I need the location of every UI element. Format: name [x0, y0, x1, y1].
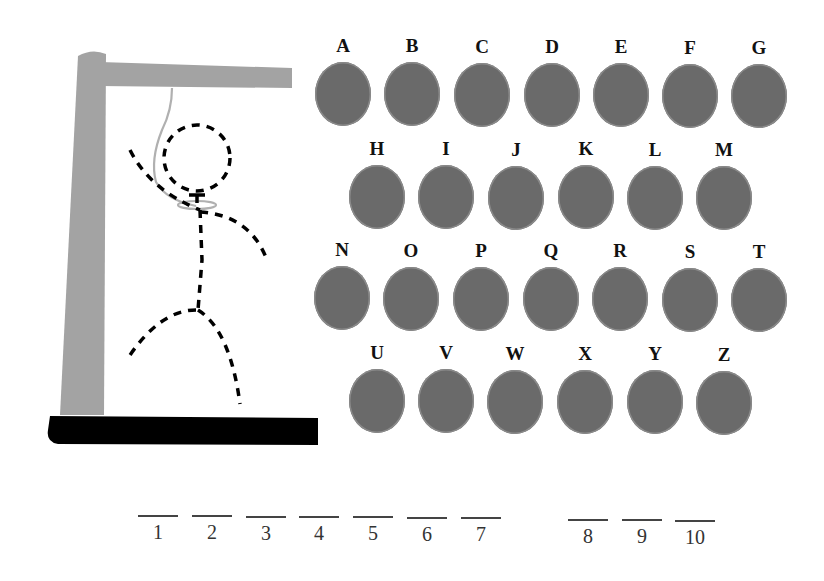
letter-button-l[interactable]: L [627, 140, 683, 230]
letter-label: X [557, 344, 613, 364]
letter-button-g[interactable]: G [731, 38, 787, 128]
blank-number: 8 [568, 525, 608, 548]
letter-blank-5: 5 [353, 516, 393, 556]
blank-number: 6 [407, 523, 447, 546]
letter-disc [383, 267, 439, 331]
letter-disc [523, 267, 579, 331]
letter-disc [731, 64, 787, 128]
letter-button-c[interactable]: C [454, 37, 510, 127]
letter-label: T [731, 242, 787, 262]
letter-disc [558, 165, 614, 229]
letter-button-a[interactable]: A [315, 36, 371, 126]
letter-blank-3: 3 [246, 516, 286, 556]
letter-disc [453, 267, 509, 331]
letter-button-x[interactable]: X [557, 344, 613, 434]
letter-label: J [488, 140, 544, 160]
letter-button-n[interactable]: N [314, 240, 370, 330]
blank-line [675, 520, 715, 522]
letter-label: P [453, 241, 509, 261]
letter-label: C [454, 37, 510, 57]
blank-number: 7 [461, 523, 501, 546]
letter-button-i[interactable]: I [418, 139, 474, 229]
blank-number: 5 [353, 522, 393, 545]
letter-blank-8: 8 [568, 519, 608, 559]
letter-label: B [384, 36, 440, 56]
letter-button-m[interactable]: M [696, 140, 752, 230]
letter-blank-2: 2 [192, 515, 232, 555]
letter-label: G [731, 38, 787, 58]
letter-disc [418, 165, 474, 229]
letter-button-e[interactable]: E [593, 37, 649, 127]
letter-disc [349, 369, 405, 433]
letter-disc [627, 370, 683, 434]
letter-blank-7: 7 [461, 517, 501, 557]
figure-right-leg [198, 310, 240, 404]
letter-disc [593, 63, 649, 127]
letter-button-u[interactable]: U [349, 343, 405, 433]
letter-disc [487, 370, 543, 434]
letter-button-y[interactable]: Y [627, 344, 683, 434]
letter-label: I [418, 139, 474, 159]
letter-disc [418, 369, 474, 433]
letter-label: L [627, 140, 683, 160]
letter-label: Z [696, 345, 752, 365]
letter-button-o[interactable]: O [383, 241, 439, 331]
letter-button-h[interactable]: H [349, 139, 405, 229]
letter-button-k[interactable]: K [558, 139, 614, 229]
letter-button-p[interactable]: P [453, 241, 509, 331]
letter-label: R [592, 241, 648, 261]
letter-disc [696, 166, 752, 230]
letter-disc [731, 268, 787, 332]
letter-button-q[interactable]: Q [523, 241, 579, 331]
letter-button-s[interactable]: S [662, 242, 718, 332]
letter-button-d[interactable]: D [524, 37, 580, 127]
blank-line [353, 516, 393, 518]
gallows-beam [100, 62, 292, 88]
letter-disc [315, 62, 371, 126]
letter-label: M [696, 140, 752, 160]
letter-blank-6: 6 [407, 517, 447, 557]
letter-label: Q [523, 241, 579, 261]
letter-label: S [662, 242, 718, 262]
letter-disc [488, 166, 544, 230]
blank-line [461, 517, 501, 519]
letter-disc [524, 63, 580, 127]
letter-disc [349, 165, 405, 229]
blank-line [299, 516, 339, 518]
blank-number: 10 [675, 526, 715, 549]
letter-disc [384, 62, 440, 126]
gallows-post [60, 51, 106, 415]
letter-button-f[interactable]: F [662, 38, 718, 128]
letter-disc [662, 268, 718, 332]
blank-number: 9 [622, 525, 662, 548]
letter-label: E [593, 37, 649, 57]
letter-label: O [383, 241, 439, 261]
figure-body [198, 210, 202, 310]
blank-line [568, 519, 608, 521]
letter-disc [557, 370, 613, 434]
letter-button-b[interactable]: B [384, 36, 440, 126]
letter-disc [696, 371, 752, 435]
letter-label: F [662, 38, 718, 58]
letter-button-v[interactable]: V [418, 343, 474, 433]
figure-left-leg [128, 310, 196, 358]
letter-button-z[interactable]: Z [696, 345, 752, 435]
letter-disc [662, 64, 718, 128]
letter-blank-9: 9 [622, 519, 662, 559]
letter-button-j[interactable]: J [488, 140, 544, 230]
letter-blank-4: 4 [299, 516, 339, 556]
blank-line [192, 515, 232, 517]
blank-line [407, 517, 447, 519]
letter-button-w[interactable]: W [487, 344, 543, 434]
blank-line [622, 519, 662, 521]
letter-button-t[interactable]: T [731, 242, 787, 332]
blank-number: 1 [138, 521, 178, 544]
blank-number: 2 [192, 521, 232, 544]
letter-button-r[interactable]: R [592, 241, 648, 331]
letter-label: N [314, 240, 370, 260]
letter-blank-10: 10 [675, 520, 715, 560]
gallows-base [48, 416, 318, 445]
letter-label: U [349, 343, 405, 363]
blank-line [246, 516, 286, 518]
figure-right-arm [200, 212, 267, 260]
